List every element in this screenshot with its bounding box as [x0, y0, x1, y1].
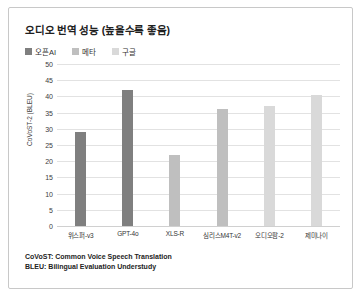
bar-slot	[151, 64, 198, 226]
y-axis-tick-label: 20	[45, 158, 53, 165]
bar-series	[57, 64, 340, 226]
bar-slot	[57, 64, 104, 226]
chart-title: 오디오 번역 성능 (높을수록 좋음)	[25, 22, 170, 37]
screenshot-root: 오디오 번역 성능 (높을수록 좋음) 오픈AI메타구글 CoVoST-2 (B…	[0, 0, 361, 296]
legend-swatch-icon	[72, 48, 79, 55]
footnote-line: CoVoST: Common Voice Speech Translation	[25, 253, 172, 260]
x-axis-tick-label: GPT-4o	[104, 230, 151, 240]
bar[interactable]	[264, 106, 275, 226]
bar-slot	[293, 64, 340, 226]
bar[interactable]	[122, 90, 133, 226]
y-axis-ticks: 50454035302520151050	[31, 64, 53, 226]
legend-label: 메타	[82, 46, 96, 57]
y-axis-tick-label: 40	[45, 93, 53, 100]
bar[interactable]	[169, 155, 180, 226]
y-axis-tick-label: 10	[45, 190, 53, 197]
chart-card: 오디오 번역 성능 (높을수록 좋음) 오픈AI메타구글 CoVoST-2 (B…	[8, 7, 353, 289]
bar-slot	[104, 64, 151, 226]
bar[interactable]	[311, 95, 322, 226]
bar[interactable]	[217, 109, 228, 226]
legend-item: 메타	[72, 46, 96, 57]
x-axis-tick-label: 위스퍼-v3	[57, 230, 104, 240]
y-axis-tick-label: 0	[49, 223, 53, 230]
chart-legend: 오픈AI메타구글	[25, 46, 136, 57]
legend-swatch-icon	[25, 48, 32, 55]
footnote-line: BLEU: Bilingual Evaluation Understudy	[25, 263, 172, 270]
footnotes: CoVoST: Common Voice Speech TranslationB…	[25, 253, 172, 270]
legend-swatch-icon	[112, 48, 119, 55]
y-axis-tick-label: 5	[49, 206, 53, 213]
y-axis-tick-label: 45	[45, 77, 53, 84]
plot-area: CoVoST-2 (BLEU) 50454035302520151050 위스퍼…	[19, 64, 344, 246]
legend-item: 오픈AI	[25, 46, 56, 57]
y-axis-tick-label: 30	[45, 125, 53, 132]
legend-label: 구글	[122, 46, 136, 57]
y-axis-tick-label: 35	[45, 109, 53, 116]
legend-label: 오픈AI	[35, 46, 56, 57]
grid-area	[57, 64, 340, 226]
bar[interactable]	[75, 132, 86, 226]
x-axis-tick-label: XLS-R	[151, 230, 198, 240]
x-axis-ticks: 위스퍼-v3GPT-4oXLS-R심리스M4T-v2오디오팜-2제미나이	[57, 230, 340, 240]
y-axis-tick-label: 25	[45, 142, 53, 149]
y-axis-tick-label: 50	[45, 61, 53, 68]
legend-item: 구글	[112, 46, 136, 57]
y-axis-tick-label: 15	[45, 174, 53, 181]
bar-slot	[199, 64, 246, 226]
x-axis-tick-label: 오디오팜-2	[246, 230, 293, 240]
gridline	[57, 226, 340, 227]
x-axis-tick-label: 제미나이	[293, 230, 340, 240]
x-axis-tick-label: 심리스M4T-v2	[199, 230, 246, 240]
bar-slot	[246, 64, 293, 226]
